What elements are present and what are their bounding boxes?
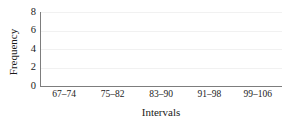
y-tick-label-0: 0 [2,81,36,91]
x-axis-spine [40,86,282,87]
x-tick-label-1: 67–74 [40,88,88,102]
y-axis-tick-labels: 8 6 4 2 0 [0,0,36,125]
y-tick-label-6: 6 [2,25,36,35]
frequency-histogram-figure: Frequency 8 6 4 2 0 67–7475–8283–9091–98… [0,0,296,125]
y-tick-label-8: 8 [2,7,36,17]
x-axis-tick-labels: 67–7475–8283–9091–9899–106 [40,88,282,102]
x-tick-label-5: 99–106 [234,88,282,102]
x-tick-label-3: 83–90 [137,88,185,102]
y-tick-label-4: 4 [2,44,36,54]
y-axis-spine [40,12,41,87]
gridline-4 [40,49,282,50]
x-tick-label-2: 75–82 [88,88,136,102]
gridline-2 [40,68,282,69]
x-axis-title: Intervals [40,105,282,119]
x-tick-label-4: 91–98 [185,88,233,102]
y-tick-label-2: 2 [2,62,36,72]
gridline-8 [40,12,282,13]
plot-area [40,12,282,86]
gridline-6 [40,31,282,32]
